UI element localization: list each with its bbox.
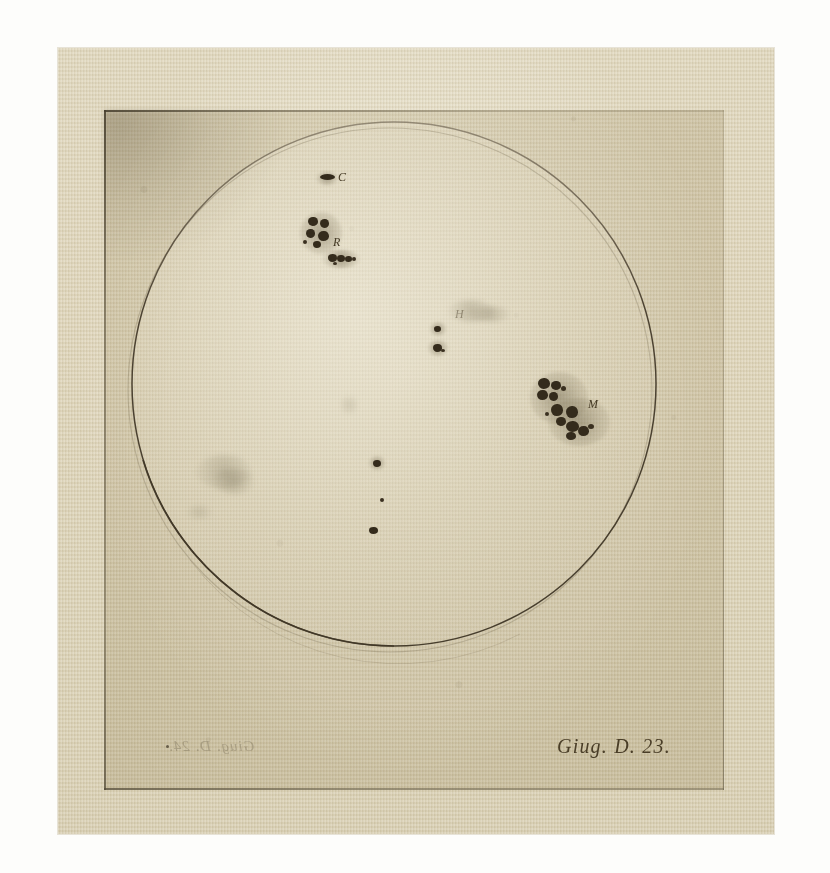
engraving-page: C R H [0,0,830,873]
ink-dot [166,745,169,748]
plate-caption: Giug. D. 23. [557,735,671,758]
plate-impression [104,110,724,790]
ghost-offset-caption: Giug. D. 24. [168,738,255,755]
paper-sheet [58,48,774,834]
